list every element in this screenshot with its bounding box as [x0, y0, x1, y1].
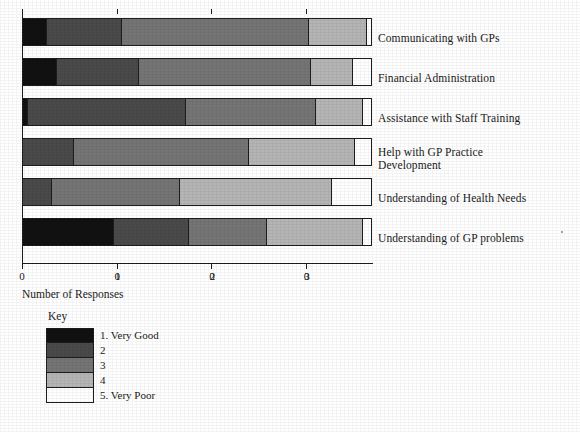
- category-label: Help with GP Practice Development: [378, 146, 483, 172]
- bar-segment[interactable]: [56, 59, 138, 85]
- x-tick-20: [211, 9, 212, 14]
- category-label: Assistance with Staff Training: [378, 112, 520, 125]
- legend-item[interactable]: 2: [46, 343, 159, 358]
- bar-segment[interactable]: [23, 179, 51, 205]
- x-tick-10: [117, 9, 118, 14]
- category-label: Communicating with GPs: [378, 32, 500, 45]
- legend-swatch: [46, 388, 94, 403]
- category-label: Understanding of Health Needs: [378, 192, 526, 205]
- bar-row: [22, 218, 372, 246]
- scan-speck-artifact: [561, 231, 563, 233]
- legend-swatch: [46, 373, 94, 388]
- bar-segment[interactable]: [185, 99, 315, 125]
- legend-swatch: [46, 328, 94, 343]
- bar-segment[interactable]: [113, 219, 188, 245]
- bar-row: [22, 138, 372, 166]
- bar-segment[interactable]: [308, 19, 366, 45]
- legend-label: 3: [100, 358, 106, 373]
- bar-segment[interactable]: [315, 99, 361, 125]
- bar-segment[interactable]: [366, 19, 371, 45]
- bar-segment[interactable]: [354, 139, 371, 165]
- legend-label: 1. Very Good: [100, 328, 159, 343]
- bar-segment[interactable]: [23, 139, 73, 165]
- stacked-bar[interactable]: [22, 178, 372, 206]
- legend-label: 4: [100, 373, 106, 388]
- bar-row: [22, 18, 372, 46]
- x-tick-label: 20: [199, 270, 223, 281]
- x-tick-0: [22, 9, 23, 14]
- bar-segment[interactable]: [310, 59, 352, 85]
- bar-segment[interactable]: [179, 179, 331, 205]
- x-tick-30: [306, 264, 307, 269]
- bar-segment[interactable]: [188, 219, 265, 245]
- bar-segment[interactable]: [352, 59, 371, 85]
- bar-segment[interactable]: [362, 219, 371, 245]
- bar-segment[interactable]: [138, 59, 310, 85]
- stacked-bar[interactable]: [22, 18, 372, 46]
- chart-canvas: Communicating with GPsFinancial Administ…: [0, 0, 580, 432]
- stacked-bar[interactable]: [22, 58, 372, 86]
- bar-segment[interactable]: [51, 179, 179, 205]
- x-tick-10: [117, 264, 118, 269]
- bar-segment[interactable]: [248, 139, 355, 165]
- x-tick-label: 0: [10, 270, 34, 281]
- x-axis-line: [22, 263, 373, 264]
- x-tick-label: 30: [294, 270, 318, 281]
- stacked-bar[interactable]: [22, 138, 372, 166]
- stacked-bar[interactable]: [22, 98, 372, 126]
- category-label: Understanding of GP problems: [378, 232, 524, 245]
- x-tick-label: 10: [105, 270, 129, 281]
- bar-row: [22, 58, 372, 86]
- bar-segment[interactable]: [23, 219, 113, 245]
- x-tick-30: [306, 9, 307, 14]
- legend-label: 2: [100, 343, 106, 358]
- x-axis-title: Number of Responses: [22, 288, 124, 300]
- bar-segment[interactable]: [46, 19, 121, 45]
- bar-segment[interactable]: [266, 219, 362, 245]
- stacked-bar[interactable]: [22, 218, 372, 246]
- legend: 1. Very Good2345. Very Poor: [46, 328, 159, 403]
- legend-swatch: [46, 358, 94, 373]
- x-tick-20: [211, 264, 212, 269]
- bar-segment[interactable]: [331, 179, 371, 205]
- plot-area: [22, 14, 372, 264]
- bar-segment[interactable]: [362, 99, 371, 125]
- legend-item[interactable]: 5. Very Poor: [46, 388, 159, 403]
- legend-label: 5. Very Poor: [100, 388, 155, 403]
- legend-swatch: [46, 343, 94, 358]
- bar-segment[interactable]: [27, 99, 186, 125]
- bar-segment[interactable]: [23, 59, 56, 85]
- bar-segment[interactable]: [73, 139, 248, 165]
- bar-segment[interactable]: [23, 19, 46, 45]
- legend-item[interactable]: 3: [46, 358, 159, 373]
- bar-segment[interactable]: [121, 19, 308, 45]
- category-label: Financial Administration: [378, 72, 495, 85]
- bar-row: [22, 178, 372, 206]
- legend-item[interactable]: 1. Very Good: [46, 328, 159, 343]
- x-tick-0: [22, 264, 23, 269]
- legend-item[interactable]: 4: [46, 373, 159, 388]
- bar-row: [22, 98, 372, 126]
- legend-title: Key: [48, 310, 67, 322]
